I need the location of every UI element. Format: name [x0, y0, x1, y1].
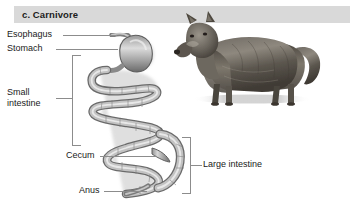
label-large-intestine: Large intestine — [203, 159, 262, 170]
label-stomach: Stomach — [7, 43, 43, 54]
bracket-arm-bottom — [182, 193, 191, 194]
bracket-arm-top — [182, 137, 191, 138]
bracket-small-intestine — [72, 55, 81, 146]
bracket-spine — [72, 55, 73, 146]
label-cecum: Cecum — [66, 150, 95, 161]
bracket-arm-bottom — [72, 145, 81, 146]
leader-line-large-intestine — [191, 165, 202, 166]
leader-line-small-intestine — [56, 98, 73, 99]
wolf-photograph — [174, 11, 320, 106]
leader-line-cecum — [100, 156, 156, 157]
bracket-large-intestine — [182, 137, 191, 194]
carnivore-digestive-system-figure: c. Carnivore — [0, 0, 362, 210]
bracket-arm-top — [72, 55, 81, 56]
leader-line-anus — [104, 191, 147, 192]
carnivore-digestive-tract-diagram — [92, 34, 185, 196]
leader-line-stomach — [56, 49, 118, 50]
leader-line-esophagus — [63, 35, 117, 36]
label-esophagus: Esophagus — [7, 29, 52, 40]
label-anus: Anus — [79, 185, 100, 196]
bracket-spine — [190, 137, 191, 194]
label-small-intestine: Small intestine — [7, 87, 55, 109]
page-title: c. Carnivore — [22, 7, 78, 22]
